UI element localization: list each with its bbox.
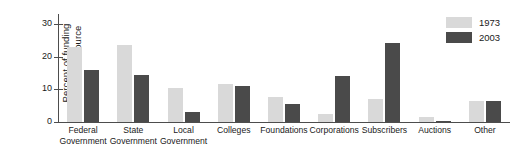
y-axis-tick-mark: [54, 57, 63, 58]
bar-1973: [419, 117, 434, 122]
y-axis-title: Percent of funding from each source: [0, 0, 34, 126]
bar-group: [367, 14, 401, 122]
legend-swatch: [446, 17, 472, 28]
bar-2003: [185, 112, 200, 122]
bar-2003: [335, 76, 350, 122]
category-label-line-2: Government: [144, 136, 224, 147]
legend-label: 2003: [479, 32, 500, 43]
bar-1973: [168, 88, 183, 122]
y-axis-tick: 0: [58, 122, 67, 123]
category-label-line-1: State: [123, 125, 143, 135]
bar-group: [116, 14, 150, 122]
bar-2003: [385, 43, 400, 122]
bar-group: [66, 14, 100, 122]
category-label-line-1: Other: [474, 125, 496, 135]
bar-1973: [218, 84, 233, 122]
legend-swatch: [446, 32, 472, 43]
legend-item: 1973: [446, 16, 518, 29]
bar-chart: Percent of funding from each source 0102…: [0, 0, 526, 158]
bar-group: [217, 14, 251, 122]
bar-2003: [84, 70, 99, 122]
category-label-line-1: Local: [173, 125, 194, 135]
x-axis-category-label: Other: [445, 125, 525, 136]
legend-label: 1973: [479, 17, 500, 28]
bar-1973: [469, 101, 484, 122]
y-axis-tick-label: 10: [42, 83, 52, 93]
legend-item: 2003: [446, 31, 518, 44]
bar-2003: [486, 101, 501, 122]
bar-1973: [268, 97, 283, 122]
x-axis-line: [58, 122, 510, 123]
bar-group: [267, 14, 301, 122]
bar-2003: [235, 86, 250, 122]
bar-1973: [368, 99, 383, 122]
y-axis-tick-label: 30: [42, 18, 52, 28]
bar-1973: [117, 45, 132, 122]
bar-group: [167, 14, 201, 122]
bar-1973: [318, 114, 333, 122]
y-axis-tick-label: 20: [42, 51, 52, 61]
bar-2003: [436, 121, 451, 122]
bar-2003: [285, 104, 300, 122]
legend: 19732003: [446, 16, 518, 46]
bar-group: [317, 14, 351, 122]
y-axis-line: [58, 14, 59, 122]
bar-2003: [134, 75, 149, 122]
y-axis-tick-mark: [54, 122, 63, 123]
y-axis-tick-mark: [54, 89, 63, 90]
y-axis-tick-mark: [54, 24, 63, 25]
bar-1973: [67, 47, 82, 122]
plot-area: 0102030: [58, 14, 510, 122]
